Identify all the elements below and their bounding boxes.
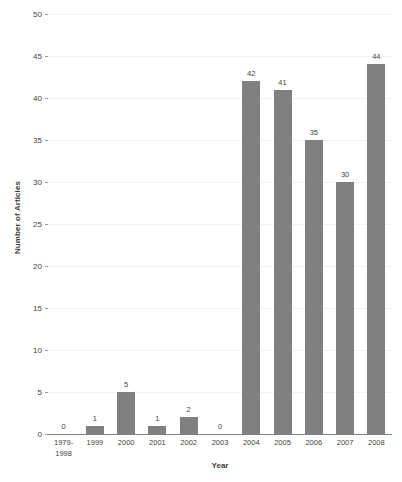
- y-axis-tick-label: 50: [20, 10, 42, 19]
- x-axis-tick-label: 2008: [361, 437, 392, 448]
- bar-slot: 30: [329, 14, 360, 434]
- x-axis-tick-label-line: 1979-: [54, 438, 73, 447]
- y-axis-tick-mark: [45, 434, 48, 435]
- x-axis-tick-label: 2001: [142, 437, 173, 448]
- x-axis-tick-label-line: 1998: [48, 448, 79, 459]
- y-axis-title-label: Number of Articles: [14, 180, 23, 253]
- x-axis-tick-label: 2003: [204, 437, 235, 448]
- x-axis-line: [48, 434, 392, 435]
- bar-slot: 0: [204, 14, 235, 434]
- x-axis-tick-label-line: 1999: [87, 438, 104, 447]
- x-axis-tick-label: 1999: [79, 437, 110, 448]
- bar-slot: 35: [298, 14, 329, 434]
- bar-value-label: 42: [247, 69, 255, 78]
- bar[interactable]: [180, 417, 198, 434]
- bar[interactable]: [117, 392, 135, 434]
- x-axis-tick-label-line: 2002: [180, 438, 197, 447]
- bar-value-label: 1: [155, 414, 159, 423]
- bar-slot: 42: [236, 14, 267, 434]
- y-axis-tick-label: 15: [20, 304, 42, 313]
- x-axis-tick-label-line: 2008: [368, 438, 385, 447]
- y-axis-tick-label: 10: [20, 346, 42, 355]
- y-axis-title: Number of Articles: [10, 0, 26, 434]
- bar-slot: 5: [111, 14, 142, 434]
- y-axis-tick-label: 40: [20, 94, 42, 103]
- y-axis-tick-label: 0: [20, 430, 42, 439]
- bar-slot: 2: [173, 14, 204, 434]
- x-axis-tick-label: 2005: [267, 437, 298, 448]
- bar-value-label: 41: [278, 78, 286, 87]
- bar-slot: 1: [79, 14, 110, 434]
- bar-slot: 41: [267, 14, 298, 434]
- bar[interactable]: [305, 140, 323, 434]
- x-axis-tick-label-line: 2004: [243, 438, 260, 447]
- x-axis-tick-label: 2006: [298, 437, 329, 448]
- bar[interactable]: [148, 426, 166, 434]
- y-axis-tick-label: 25: [20, 220, 42, 229]
- y-axis-tick-label: 5: [20, 388, 42, 397]
- bar-slot: 0: [48, 14, 79, 434]
- x-axis-tick-label-line: 2007: [337, 438, 354, 447]
- bar[interactable]: [367, 64, 385, 434]
- x-axis-tick-label: 2000: [111, 437, 142, 448]
- bar-value-label: 30: [341, 170, 349, 179]
- x-axis-tick-label: 2004: [236, 437, 267, 448]
- bar[interactable]: [274, 90, 292, 434]
- x-axis-tick-label-line: 2005: [274, 438, 291, 447]
- bar-value-label: 0: [218, 422, 222, 431]
- bar[interactable]: [86, 426, 104, 434]
- x-axis-tick-label: 2007: [329, 437, 360, 448]
- x-axis-tick-label-line: 2001: [149, 438, 166, 447]
- x-axis-tick-label: 2002: [173, 437, 204, 448]
- bar-value-label: 0: [62, 422, 66, 431]
- bar-slot: 1: [142, 14, 173, 434]
- bar[interactable]: [242, 81, 260, 434]
- bar-value-label: 5: [124, 380, 128, 389]
- y-axis-tick-label: 30: [20, 178, 42, 187]
- x-axis-tick-label: 1979-1998: [48, 437, 79, 459]
- plot-area: 051015202530354045500151204241353044: [48, 14, 392, 434]
- bar-chart: Number of Articles 051015202530354045500…: [0, 0, 402, 482]
- bar-value-label: 2: [187, 405, 191, 414]
- x-axis-tick-label-line: 2006: [305, 438, 322, 447]
- bar-value-label: 44: [372, 52, 380, 61]
- y-axis-tick-label: 45: [20, 52, 42, 61]
- bar[interactable]: [336, 182, 354, 434]
- x-axis-title: Year: [48, 461, 392, 470]
- bar-slot: 44: [361, 14, 392, 434]
- y-axis-tick-label: 20: [20, 262, 42, 271]
- x-axis-tick-label-line: 2000: [118, 438, 135, 447]
- bar-value-label: 1: [93, 414, 97, 423]
- y-axis-tick-label: 35: [20, 136, 42, 145]
- x-axis-tick-label-line: 2003: [212, 438, 229, 447]
- bar-value-label: 35: [310, 128, 318, 137]
